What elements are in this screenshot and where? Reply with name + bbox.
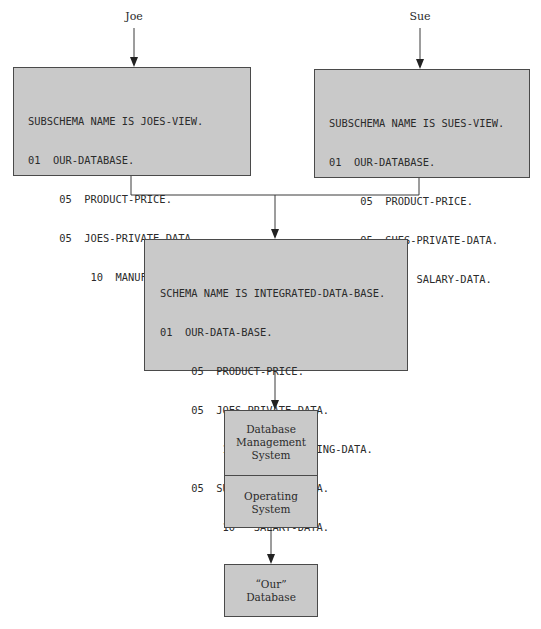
- os-label-line: Operating: [225, 490, 317, 503]
- arrowhead-icon: [130, 57, 138, 67]
- dbms-label-line: System: [225, 449, 317, 462]
- schema-box: SCHEMA NAME IS INTEGRATED-DATA-BASE. 01 …: [144, 239, 408, 371]
- os-label-line: System: [225, 503, 317, 516]
- code-line: 05 PRODUCT-PRICE.: [329, 195, 504, 208]
- code-line: 01 OUR-DATABASE.: [329, 156, 504, 169]
- dbms-label: Database Management System: [225, 423, 317, 462]
- database-label-line: “Our”: [225, 578, 317, 591]
- database-box: “Our” Database: [224, 564, 318, 617]
- user-label-sue: Sue: [409, 10, 430, 23]
- database-label: “Our” Database: [225, 578, 317, 604]
- code-line: 01 OUR-DATABASE.: [28, 154, 247, 167]
- code-line: SUBSCHEMA NAME IS SUES-VIEW.: [329, 117, 504, 130]
- dbms-os-box: Database Management System Operating Sys…: [224, 410, 318, 528]
- subschema-box-sue: SUBSCHEMA NAME IS SUES-VIEW. 01 OUR-DATA…: [314, 69, 530, 178]
- dbms-label-line: Database: [225, 423, 317, 436]
- code-line: SUBSCHEMA NAME IS JOES-VIEW.: [28, 115, 247, 128]
- user-label-joe: Joe: [125, 10, 143, 23]
- arrowhead-icon: [271, 229, 279, 239]
- code-line: 01 OUR-DATA-BASE.: [160, 326, 385, 339]
- code-line: 05 PRODUCT-PRICE.: [28, 193, 247, 206]
- dbms-label-line: Management: [225, 436, 317, 449]
- arrowhead-icon: [416, 59, 424, 69]
- subschema-box-joe: SUBSCHEMA NAME IS JOES-VIEW. 01 OUR-DATA…: [13, 67, 251, 176]
- database-label-line: Database: [225, 591, 317, 604]
- dbms-os-divider: [225, 475, 317, 476]
- code-line: SCHEMA NAME IS INTEGRATED-DATA-BASE.: [160, 287, 385, 300]
- code-line: 05 PRODUCT-PRICE.: [160, 365, 385, 378]
- os-label: Operating System: [225, 490, 317, 516]
